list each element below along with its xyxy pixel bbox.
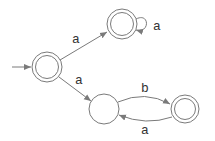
transition-label: b [141,81,149,96]
state-q1[interactable] [107,9,137,39]
state-q2[interactable] [89,94,119,124]
state-q3[interactable] [171,95,199,123]
transition-label: a [75,73,83,88]
transition-q3-q2 [119,115,172,121]
transition-q2-q3 [118,96,170,104]
transition-q1-loop [136,18,147,31]
state-q0[interactable] [32,52,62,82]
automaton-diagram: a a a b a [0,0,215,141]
transition-label: a [153,19,161,34]
transition-label: a [72,32,80,47]
transition-label: a [141,123,149,138]
transition-q0-q1 [60,32,107,60]
